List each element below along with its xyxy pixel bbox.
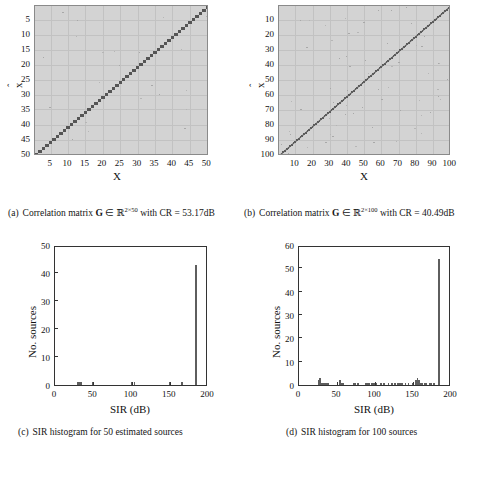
x-axis-title-b: X bbox=[360, 170, 368, 182]
diagonal-cell bbox=[150, 54, 153, 57]
gridline-horizontal bbox=[35, 50, 207, 51]
diagonal-cell bbox=[59, 132, 62, 135]
panel-b-correlation-matrix-100: 102030405060708090100 102030405060708090… bbox=[240, 0, 480, 200]
histogram-bar bbox=[426, 383, 428, 385]
noise-speckle bbox=[290, 134, 291, 135]
caption-b-symbol: G bbox=[332, 208, 339, 218]
y-tick-80: 80 bbox=[240, 120, 274, 129]
noise-speckle bbox=[181, 49, 182, 50]
histogram-bar bbox=[327, 383, 329, 385]
x-tick-5: 5 bbox=[47, 159, 52, 168]
histogram-bar bbox=[354, 383, 356, 385]
x-tick-0: 0 bbox=[52, 390, 57, 399]
hat-accent-a: ˆ bbox=[7, 84, 17, 87]
noise-speckle bbox=[355, 146, 357, 147]
x-tick-70: 70 bbox=[393, 159, 402, 168]
histogram-bar bbox=[388, 383, 390, 385]
y-tick-40: 40 bbox=[240, 288, 294, 297]
caption-b-exponent: 2×100 bbox=[361, 206, 378, 213]
diagonal-cell bbox=[108, 90, 111, 93]
noise-speckle bbox=[373, 142, 375, 143]
noise-speckle bbox=[388, 87, 389, 88]
noise-speckle bbox=[396, 141, 397, 142]
histogram-bar bbox=[391, 383, 393, 385]
x-tickmark bbox=[413, 382, 414, 385]
noise-speckle bbox=[440, 99, 441, 100]
panel-d-sir-histogram-100: 050100150200 0102030405060 SIR (dB) No. … bbox=[240, 228, 480, 443]
noise-speckle bbox=[378, 89, 379, 90]
noise-speckle bbox=[357, 32, 359, 33]
noise-speckle bbox=[85, 122, 87, 123]
diagonal-cell bbox=[129, 72, 132, 75]
diagonal-cell bbox=[84, 111, 87, 114]
diagonal-cell bbox=[66, 126, 69, 129]
noise-speckle bbox=[102, 52, 104, 53]
figure-panel-grid: 5101520253035404550 5101520253035404550 … bbox=[0, 0, 481, 480]
y-tick-90: 90 bbox=[240, 135, 274, 144]
diagonal-cell bbox=[157, 48, 160, 51]
diagonal-cell bbox=[449, 6, 450, 8]
noise-speckle bbox=[345, 114, 346, 115]
diagonal-cell bbox=[73, 120, 76, 123]
noise-speckle bbox=[88, 131, 89, 132]
noise-speckle bbox=[406, 7, 407, 8]
y-tick-60: 60 bbox=[240, 90, 274, 99]
histogram-plot-area-c bbox=[54, 246, 207, 386]
x-axis-title-c: SIR (dB) bbox=[110, 403, 150, 415]
noise-speckle bbox=[330, 134, 331, 135]
diagonal-cell bbox=[136, 66, 139, 69]
diagonal-cell bbox=[178, 30, 181, 33]
y-axis-title-d: No. sources bbox=[270, 306, 282, 358]
noise-speckle bbox=[391, 10, 392, 11]
diagonal-cell bbox=[63, 129, 66, 132]
histogram-bar bbox=[357, 383, 359, 385]
x-tick-200: 200 bbox=[200, 390, 214, 399]
y-tick-30: 30 bbox=[240, 312, 294, 321]
caption-a-post: with CR = 53.17dB bbox=[140, 208, 215, 218]
y-tick-50: 50 bbox=[240, 265, 294, 274]
histogram-bar bbox=[433, 383, 435, 385]
noise-speckle bbox=[140, 98, 142, 99]
y-tick-30: 30 bbox=[240, 45, 274, 54]
diagonal-cell bbox=[181, 27, 184, 30]
diagonal-cell bbox=[115, 84, 118, 87]
diagonal-cell bbox=[174, 33, 177, 36]
panel-c-sir-histogram-50: 050100150200 01020304050 SIR (dB) No. so… bbox=[0, 228, 240, 443]
noise-speckle bbox=[336, 125, 337, 126]
y-tick-100: 100 bbox=[240, 150, 274, 159]
gridline-horizontal bbox=[35, 125, 207, 126]
caption-b-post: with CR = 40.49dB bbox=[380, 208, 455, 218]
noise-speckle bbox=[398, 62, 400, 63]
noise-speckle bbox=[346, 56, 347, 57]
noise-speckle bbox=[430, 112, 431, 113]
diagonal-cell bbox=[167, 39, 170, 42]
gridline-horizontal bbox=[35, 20, 207, 21]
noise-speckle bbox=[411, 23, 412, 24]
diagonal-cell bbox=[105, 93, 108, 96]
diagonal-cell bbox=[188, 21, 191, 24]
diagonal-cell bbox=[199, 12, 202, 15]
histogram-bar bbox=[438, 259, 440, 385]
noise-speckle bbox=[363, 22, 365, 23]
y-tick-10: 10 bbox=[240, 15, 274, 24]
noise-speckle bbox=[281, 144, 282, 145]
x-tickmark bbox=[132, 382, 133, 385]
noise-speckle bbox=[362, 107, 363, 108]
noise-speckle bbox=[419, 100, 420, 101]
noise-speckle bbox=[330, 88, 331, 89]
noise-speckle bbox=[353, 113, 354, 114]
noise-speckle bbox=[378, 10, 379, 11]
diagonal-cell bbox=[171, 36, 174, 39]
x-tick-150: 150 bbox=[162, 390, 176, 399]
gridline-horizontal bbox=[35, 109, 207, 110]
x-tick-10: 10 bbox=[63, 159, 72, 168]
histogram-bar bbox=[394, 383, 396, 385]
noise-speckle bbox=[325, 142, 327, 143]
noise-speckle bbox=[438, 63, 439, 64]
noise-speckle bbox=[333, 102, 334, 103]
y-tick-60: 60 bbox=[240, 242, 294, 251]
x-tick-100: 100 bbox=[442, 159, 456, 168]
matrix-plot-area-a bbox=[34, 5, 208, 155]
y-tick-20: 20 bbox=[240, 335, 294, 344]
noise-speckle bbox=[394, 50, 395, 51]
